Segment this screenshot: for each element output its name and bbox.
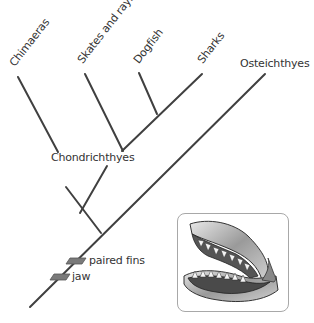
character-jaw: jaw <box>72 270 90 283</box>
paired-fins-marker <box>66 258 86 264</box>
taxon-osteichthyes: Osteichthyes <box>240 57 309 70</box>
sharks-branch <box>122 74 202 151</box>
character-paired-fins: paired fins <box>89 254 145 267</box>
jaw-marker <box>50 274 70 280</box>
shark-jaw-illustration <box>177 213 289 312</box>
chimaeras-branch <box>18 77 58 152</box>
clade-chondrichthyes: Chondrichthyes <box>51 151 134 164</box>
dogfish-branch <box>139 73 157 114</box>
shark-jaw-icon <box>178 214 288 311</box>
chondrichthyes-inner-branch <box>80 166 107 213</box>
cladogram: Chimaeras Skates and rays Dogfish Sharks… <box>0 0 314 323</box>
chondrichthyes-stem <box>66 187 101 233</box>
skates-branch <box>85 74 123 151</box>
